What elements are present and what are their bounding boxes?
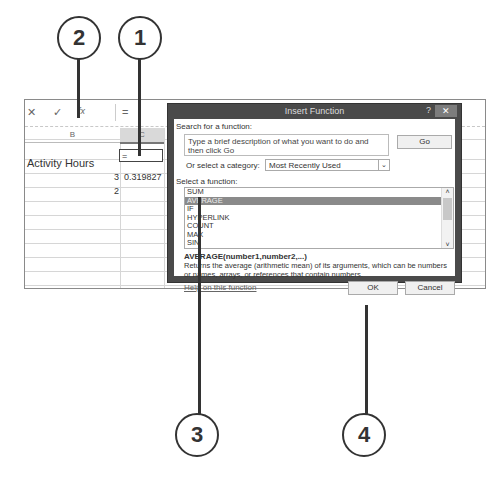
formula-bar-separator <box>115 104 116 121</box>
list-item[interactable]: SIN <box>185 239 453 248</box>
function-search-input[interactable]: Type a brief description of what you wan… <box>184 134 389 156</box>
search-label: Search for a function: <box>176 122 252 131</box>
scroll-thumb[interactable] <box>443 198 452 220</box>
list-item[interactable]: HYPERLINK <box>185 214 453 223</box>
callout-2: 2 <box>57 16 101 60</box>
ok-button[interactable]: OK <box>348 281 398 295</box>
callout-2-leader <box>77 58 80 118</box>
category-value: Most Recently Used <box>269 161 341 170</box>
category-select[interactable]: Most Recently Used ⌄ <box>265 159 390 171</box>
close-icon[interactable]: ✕ <box>435 105 457 117</box>
callout-3: 3 <box>175 413 219 457</box>
callout-1-leader <box>138 58 141 156</box>
callout-4-leader <box>365 305 368 415</box>
cancel-entry-icon[interactable]: ✕ <box>27 106 36 119</box>
dialog-body: Search for a function: Type a brief desc… <box>174 119 455 276</box>
cancel-button[interactable]: Cancel <box>405 281 455 295</box>
cell-b-value[interactable]: 3 <box>114 172 119 182</box>
chevron-down-icon[interactable]: ⌄ <box>378 160 389 170</box>
list-scrollbar[interactable]: ˄ ˅ <box>441 188 453 248</box>
category-label: Or select a category: <box>186 161 260 170</box>
column-header-c[interactable]: C <box>120 128 164 144</box>
insert-function-dialog: Insert Function ? ✕ Search for a functio… <box>167 103 462 283</box>
callout-1: 1 <box>118 16 162 60</box>
list-item-selected[interactable]: AVERAGE <box>185 197 441 206</box>
function-signature: AVERAGE(number1,number2,...) <box>184 252 307 261</box>
column-divider <box>164 128 165 288</box>
go-button[interactable]: Go <box>397 135 452 149</box>
confirm-entry-icon[interactable]: ✓ <box>53 106 62 119</box>
select-function-label: Select a function: <box>176 177 237 186</box>
callout-4: 4 <box>342 413 386 457</box>
function-list[interactable]: SUM AVERAGE IF HYPERLINK COUNT MAX SIN ˄… <box>184 187 454 249</box>
active-cell[interactable]: = <box>119 149 163 162</box>
list-item[interactable]: MAX <box>185 231 453 240</box>
header-cell-activity-hours[interactable]: Activity Hours <box>27 157 94 169</box>
cell-b-value[interactable]: 2 <box>114 186 119 196</box>
callout-3-leader <box>198 197 201 415</box>
scroll-up-icon[interactable]: ˄ <box>442 188 453 195</box>
list-item[interactable]: COUNT <box>185 222 453 231</box>
column-header-b[interactable]: B <box>25 128 120 143</box>
dialog-title: Insert Function <box>168 104 461 118</box>
formula-input[interactable]: = <box>122 106 128 118</box>
function-description: Returns the average (arithmetic mean) of… <box>184 261 454 279</box>
help-link[interactable]: Help on this function <box>184 283 257 292</box>
help-icon[interactable]: ? <box>426 105 431 115</box>
scroll-down-icon[interactable]: ˅ <box>442 241 453 248</box>
list-item[interactable]: SUM <box>185 188 453 197</box>
cell-c-value[interactable]: 0.319827 <box>124 172 162 182</box>
